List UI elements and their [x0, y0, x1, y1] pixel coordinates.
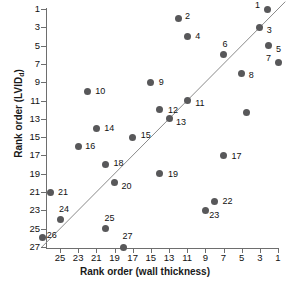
x-tick-label: 25 — [50, 253, 70, 263]
data-point-label: 6 — [223, 40, 228, 49]
data-point[interactable] — [238, 70, 245, 77]
data-point-label: 23 — [209, 211, 219, 220]
y-tick-label-text: 27 — [18, 242, 40, 251]
y-tick-label-text: 9 — [18, 77, 40, 86]
y-tick-label-text: 13 — [18, 114, 40, 123]
data-point-label: 5 — [276, 45, 281, 54]
data-point-label: 14 — [104, 124, 114, 133]
y-tick-label-text: 23 — [18, 205, 40, 214]
data-point[interactable] — [102, 161, 109, 168]
x-tick-label: 1 — [268, 253, 288, 263]
y-tick-label: 19 — [14, 169, 40, 179]
data-point-label: 4 — [195, 32, 200, 41]
y-tick-label-text: 17 — [18, 150, 40, 159]
y-tick-label-text: 15 — [18, 132, 40, 141]
x-tick-label: 5 — [232, 253, 252, 263]
x-tick-label: 21 — [86, 253, 106, 263]
y-tick-mark — [41, 64, 46, 65]
x-tick-label: 23 — [68, 253, 88, 263]
data-point[interactable] — [47, 189, 54, 196]
x-tick-label: 9 — [195, 253, 215, 263]
y-tick-label-text: 3 — [18, 22, 40, 31]
y-tick-mark — [41, 229, 46, 230]
scatter-chart: Rank order (LVIDd) Rank order (wall thic… — [0, 0, 290, 285]
data-point[interactable] — [84, 88, 91, 95]
data-point-label: 7 — [266, 54, 271, 63]
y-tick-mark — [41, 27, 46, 28]
data-point-label: 8 — [249, 71, 254, 80]
data-point[interactable] — [202, 207, 209, 214]
y-tick-mark — [41, 101, 46, 102]
x-tick-label: 19 — [105, 253, 125, 263]
y-tick-label: 11 — [14, 96, 40, 106]
y-tick-label: 7 — [14, 59, 40, 69]
y-tick-label: 9 — [14, 77, 40, 87]
y-tick-label-text: 1 — [18, 4, 40, 13]
data-point[interactable] — [166, 115, 173, 122]
y-tick-label: 25 — [14, 224, 40, 234]
data-point[interactable] — [243, 109, 250, 116]
y-tick-label: 21 — [14, 187, 40, 197]
data-point-label: 11 — [195, 99, 204, 108]
data-point-label: 3 — [267, 26, 272, 35]
y-tick-label: 3 — [14, 22, 40, 32]
data-point[interactable] — [220, 152, 227, 159]
data-point-label: 24 — [59, 205, 69, 214]
x-tick-label: 17 — [123, 253, 143, 263]
data-point-label: 18 — [113, 159, 123, 168]
data-point-label: 25 — [104, 214, 114, 223]
y-tick-mark — [41, 155, 46, 156]
y-tick-mark — [41, 119, 46, 120]
y-tick-mark — [41, 9, 46, 10]
y-tick-mark — [41, 137, 46, 138]
data-point[interactable] — [184, 97, 191, 104]
data-point-label: 19 — [168, 170, 178, 179]
data-point-label: 2 — [185, 12, 190, 21]
data-point[interactable] — [129, 134, 136, 141]
data-point-label: 26 — [47, 231, 57, 240]
x-tick-label: 7 — [214, 253, 234, 263]
data-point-label: 9 — [159, 78, 164, 87]
y-tick-label: 23 — [14, 205, 40, 215]
y-tick-mark — [41, 174, 46, 175]
y-tick-mark — [41, 210, 46, 211]
data-point[interactable] — [175, 15, 182, 22]
data-point-label: 17 — [232, 152, 242, 161]
data-point-label: 27 — [123, 232, 133, 241]
data-point[interactable] — [275, 59, 282, 66]
data-point-label: 20 — [122, 182, 132, 191]
y-tick-label: 5 — [14, 41, 40, 51]
data-point[interactable] — [264, 6, 271, 13]
y-tick-label: 17 — [14, 150, 40, 160]
y-tick-mark — [41, 46, 46, 47]
data-point[interactable] — [75, 143, 82, 150]
x-tick-label: 11 — [177, 253, 197, 263]
y-tick-label-text: 7 — [18, 59, 40, 68]
y-tick-label: 27 — [14, 242, 40, 252]
data-point[interactable] — [211, 198, 218, 205]
x-tick-label: 13 — [159, 253, 179, 263]
y-tick-label-text: 25 — [18, 224, 40, 233]
data-point[interactable] — [93, 125, 100, 132]
y-tick-mark — [41, 247, 46, 248]
data-point-label: 22 — [222, 197, 232, 206]
y-tick-mark — [41, 192, 46, 193]
data-point[interactable] — [120, 244, 127, 251]
data-point[interactable] — [57, 216, 64, 223]
data-point-label: 1 — [255, 1, 260, 10]
y-tick-label-text: 5 — [18, 41, 40, 50]
regression-line — [0, 0, 290, 285]
data-point[interactable] — [184, 33, 191, 40]
y-tick-label-text: 21 — [18, 187, 40, 196]
y-tick-label: 15 — [14, 132, 40, 142]
y-tick-label: 13 — [14, 114, 40, 124]
y-tick-label: 1 — [14, 4, 40, 14]
data-point-label: 13 — [176, 118, 186, 127]
y-tick-label-text: 19 — [18, 169, 40, 178]
x-tick-label: 3 — [250, 253, 270, 263]
y-tick-label-text: 11 — [18, 96, 40, 105]
data-point-label: 21 — [58, 188, 68, 197]
x-tick-label: 15 — [141, 253, 161, 263]
data-point-label: 16 — [85, 142, 95, 151]
data-point-label: 15 — [141, 131, 151, 140]
